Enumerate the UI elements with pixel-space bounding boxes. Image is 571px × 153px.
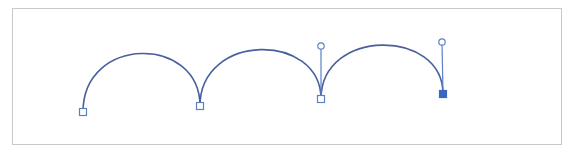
anchor-2-square-icon[interactable] <box>197 103 204 110</box>
handle-anchor-4-point-icon[interactable] <box>439 39 445 45</box>
anchor-4-selected-square-icon[interactable] <box>440 91 447 98</box>
bezier-canvas <box>0 0 571 153</box>
anchor-1-square-icon[interactable] <box>80 109 87 116</box>
path-diagram <box>0 0 571 153</box>
handle-anchor-3-point-icon[interactable] <box>318 43 324 49</box>
anchor-3-square-icon[interactable] <box>318 96 325 103</box>
